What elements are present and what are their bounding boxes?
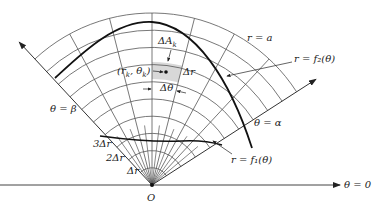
grid-fine-ray: [152, 146, 198, 185]
curve-f1: [100, 136, 222, 145]
leader-f1: [213, 141, 232, 154]
label-origin: O: [147, 193, 155, 203]
leader-delta-a: [168, 50, 171, 61]
ray-theta-alpha: [152, 79, 316, 185]
label-delta-a-k: ΔAk: [158, 36, 177, 49]
polar-area-diagram: r = a r = f₂(θ) θ = α θ = β r = f₁(θ) θ …: [0, 0, 382, 208]
label-f1-curve: r = f₁(θ): [231, 155, 272, 165]
label-delta-theta: Δθ: [160, 83, 173, 93]
label-delta-r: Δr: [127, 166, 139, 176]
label-point-rk-thetak: (rk, θk): [117, 66, 150, 79]
leader-delta-theta-right: [177, 91, 186, 93]
label-theta-alpha: θ = α: [254, 118, 282, 128]
label-f2-curve: r = f₂(θ): [294, 54, 335, 64]
origin-point: [150, 183, 154, 187]
sample-point-rk-thetak: [164, 70, 168, 74]
label-theta-zero: θ = 0: [344, 180, 371, 190]
label-delta-r-cell: Δr: [183, 67, 195, 77]
label-3-delta-r: 3Δr: [93, 139, 111, 149]
label-r-equals-a: r = a: [247, 33, 272, 43]
label-theta-beta: θ = β: [50, 104, 77, 114]
label-2-delta-r: 2Δr: [106, 153, 124, 163]
